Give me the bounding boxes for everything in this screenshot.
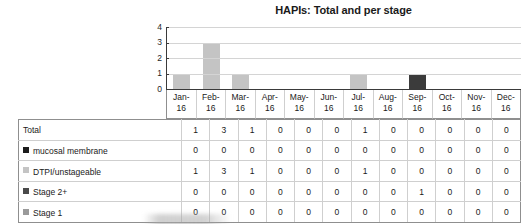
month-year: 16	[206, 103, 215, 114]
row-label-text: DTPI/unstageable	[33, 166, 101, 176]
table-row: Stage 1000000000000	[19, 202, 521, 223]
plot-area	[166, 27, 521, 90]
table-cell: 0	[182, 140, 210, 161]
table-cell: 0	[323, 120, 351, 141]
x-axis-month-cell: Aug-16	[374, 90, 404, 119]
table-cell: 0	[351, 140, 379, 161]
month-name: Mar-	[232, 92, 249, 103]
month-name: Dec-	[497, 92, 515, 103]
table-cell: 0	[266, 161, 294, 182]
table-row: Stage 2+000000001000	[19, 181, 521, 202]
table-cell: 0	[238, 181, 266, 202]
table-cell: 0	[323, 181, 351, 202]
table-cell: 0	[182, 181, 210, 202]
legend-swatch-icon	[23, 209, 29, 215]
y-axis: 01234	[142, 27, 162, 90]
table-cell: 0	[266, 140, 294, 161]
month-year: 16	[472, 103, 481, 114]
chart-figure: HAPIs: Total and per stage 01234 Jan-16F…	[0, 0, 527, 224]
x-axis-month-cell: May-16	[285, 90, 315, 119]
table-cell: 0	[492, 161, 520, 182]
month-name: Jan-	[173, 92, 190, 103]
table-body: Total131000100000mucosal membrane0000000…	[19, 120, 521, 223]
table-cell: 1	[351, 120, 379, 141]
month-year: 16	[501, 103, 510, 114]
table-cell: 0	[379, 202, 407, 223]
table-cell: 0	[379, 120, 407, 141]
month-name: Oct-	[439, 92, 455, 103]
table-cell: 0	[379, 140, 407, 161]
y-tick-mark	[166, 74, 169, 75]
table-cell: 0	[266, 120, 294, 141]
table-cell: 1	[182, 120, 210, 141]
month-year: 16	[177, 103, 186, 114]
table-cell: 0	[351, 202, 379, 223]
table-row: mucosal membrane000000000000	[19, 140, 521, 161]
x-axis-month-cell: Oct-16	[433, 90, 463, 119]
month-year: 16	[265, 103, 274, 114]
table-cell: 0	[408, 202, 436, 223]
table-cell: 0	[351, 181, 379, 202]
legend-swatch-icon	[23, 147, 29, 153]
legend-swatch-icon	[23, 188, 29, 194]
table-cell: 1	[182, 161, 210, 182]
table-cell: 0	[408, 120, 436, 141]
month-name: Aug-	[379, 92, 397, 103]
y-tick-label: 0	[146, 85, 162, 93]
x-axis-month-cell: Jul-16	[344, 90, 374, 119]
table-cell: 0	[295, 202, 323, 223]
x-axis-month-cell: Nov-16	[462, 90, 492, 119]
table-cell: 0	[295, 181, 323, 202]
row-label-cell: DTPI/unstageable	[19, 161, 182, 182]
table-cell: 0	[464, 181, 492, 202]
table-cell: 0	[436, 181, 464, 202]
table-cell: 0	[492, 202, 520, 223]
table-cell: 3	[210, 161, 238, 182]
x-axis-month-cell: Mar-16	[226, 90, 256, 119]
row-label-text: Total	[23, 125, 41, 135]
month-name: Nov-	[467, 92, 485, 103]
table-row: Total131000100000	[19, 120, 521, 141]
table-cell: 0	[492, 120, 520, 141]
month-name: Jun-	[320, 92, 337, 103]
bar	[409, 74, 426, 90]
month-name: May-	[290, 92, 309, 103]
month-year: 16	[354, 103, 363, 114]
table-cell: 0	[436, 140, 464, 161]
row-label-cell: mucosal membrane	[19, 140, 182, 161]
table-row: DTPI/unstageable131000100000	[19, 161, 521, 182]
bar	[203, 43, 220, 90]
gridline	[166, 27, 521, 28]
table-cell: 0	[379, 161, 407, 182]
month-name: Sep-	[408, 92, 426, 103]
table-cell: 0	[323, 202, 351, 223]
x-axis-labels: Jan-16Feb-16Mar-16Apr-16May-16Jun-16Jul-…	[166, 90, 521, 119]
bar	[232, 74, 249, 90]
table-cell: 0	[238, 202, 266, 223]
table-cell: 1	[238, 120, 266, 141]
legend-swatch-icon	[23, 167, 29, 173]
month-year: 16	[383, 103, 392, 114]
y-tick-mark	[166, 27, 169, 28]
x-axis-month-cell: Dec-16	[492, 90, 522, 119]
x-axis-month-cell: Feb-16	[197, 90, 227, 119]
y-tick-label: 4	[146, 23, 162, 31]
y-tick-mark	[166, 58, 169, 59]
table-cell: 0	[464, 161, 492, 182]
bar	[173, 74, 190, 90]
table-cell: 0	[323, 140, 351, 161]
table-cell: 0	[492, 181, 520, 202]
x-axis-month-cell: Apr-16	[256, 90, 286, 119]
row-label-text: Stage 2+	[33, 187, 67, 197]
table-cell: 0	[295, 161, 323, 182]
table-cell: 0	[266, 202, 294, 223]
y-tick-label: 1	[146, 69, 162, 77]
y-tick-mark	[166, 43, 169, 44]
page-title: HAPIs: Total and per stage	[166, 4, 521, 16]
table-cell: 0	[436, 161, 464, 182]
table-cell: 0	[436, 120, 464, 141]
table-cell: 0	[464, 140, 492, 161]
month-year: 16	[413, 103, 422, 114]
table-cell: 0	[408, 161, 436, 182]
row-label-text: mucosal membrane	[33, 146, 108, 156]
